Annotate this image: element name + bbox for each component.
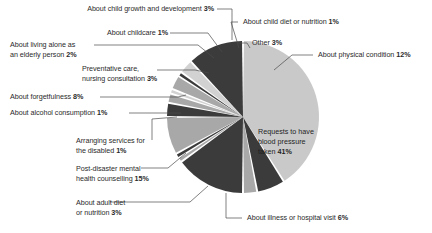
callout-preventative-line1: Preventative care,: [82, 64, 157, 74]
callout-child-growth-value: 3%: [204, 4, 214, 13]
callout-child-growth-text: About child growth and development: [87, 4, 204, 13]
callout-post-disaster-mental-health: Post-disaster mental health counselling …: [76, 164, 149, 183]
callout-childcare: About childcare 1%: [107, 28, 168, 38]
callout-alcohol-consumption: About alcohol consumption 1%: [10, 108, 107, 118]
callout-child-growth: About child growth and development 3%: [87, 4, 214, 14]
callout-adult-diet-line2: or nutrition 3%: [76, 208, 125, 218]
callout-preventative-text2: nursing consultation: [82, 74, 147, 83]
callout-physical-text: About physical condition: [318, 50, 396, 59]
callout-living-alone: About living alone as an elderly person …: [10, 40, 77, 59]
callout-physical-value: 12%: [396, 50, 410, 59]
callout-child-diet-text: About child diet or nutrition: [243, 17, 329, 26]
callout-living-alone-line2: an elderly person 2%: [10, 50, 77, 60]
callout-child-diet: About child diet or nutrition 1%: [243, 17, 339, 27]
callout-post-disaster-line1: Post-disaster mental: [76, 164, 149, 174]
callout-living-alone-text2: an elderly person: [10, 50, 66, 59]
inner-label-blood-pressure-text3: taken: [258, 147, 278, 156]
callout-other-value: 3%: [272, 38, 282, 47]
inner-label-blood-pressure-line3: taken 41%: [258, 147, 314, 157]
callout-living-alone-line1: About living alone as: [10, 40, 77, 50]
callout-disabled-value: 1%: [116, 146, 126, 155]
pie-chart-figure: About child growth and development 3% Ab…: [0, 0, 432, 233]
callout-preventative-line2: nursing consultation 3%: [82, 74, 157, 84]
callout-forgetfulness: About forgetfulness 8%: [10, 92, 83, 102]
callout-childcare-text: About childcare: [107, 28, 158, 37]
callout-other: Other 3%: [252, 38, 282, 48]
callout-post-disaster-text2: health counselling: [76, 174, 135, 183]
callout-alcohol-text: About alcohol consumption: [10, 108, 97, 117]
callout-post-disaster-value: 15%: [135, 174, 149, 183]
callout-forgetfulness-value: 8%: [73, 92, 83, 101]
callout-adult-diet: About adult diet or nutrition 3%: [76, 198, 125, 217]
callout-illness-text: About illness or hospital visit: [247, 213, 338, 222]
callout-adult-diet-line1: About adult diet: [76, 198, 125, 208]
callout-preventative-value: 3%: [147, 74, 157, 83]
callout-alcohol-value: 1%: [97, 108, 107, 117]
callout-disabled-line1: Arranging services for: [76, 136, 145, 146]
callout-post-disaster-line2: health counselling 15%: [76, 174, 149, 184]
leader-line-child-growth: [217, 9, 232, 40]
callout-disabled-line2: the disabled 1%: [76, 146, 145, 156]
callout-disabled-text2: the disabled: [76, 146, 116, 155]
callout-forgetfulness-text: About forgetfulness: [10, 92, 73, 101]
inner-label-blood-pressure-line1: Requests to have: [258, 127, 314, 137]
callout-adult-diet-value: 3%: [111, 208, 121, 217]
inner-label-blood-pressure: Requests to have blood pressure taken 41…: [258, 127, 314, 157]
callout-illness-value: 6%: [338, 213, 348, 222]
callout-child-diet-value: 1%: [329, 17, 339, 26]
leader-line-illness: [226, 193, 242, 218]
inner-label-blood-pressure-value: 41%: [278, 147, 292, 156]
leader-line-living-alone: [94, 45, 214, 58]
callout-arranging-services-disabled: Arranging services for the disabled 1%: [76, 136, 145, 155]
callout-other-text: Other: [252, 38, 272, 47]
callout-physical-condition: About physical condition 12%: [318, 50, 411, 60]
inner-label-blood-pressure-line2: blood pressure: [258, 137, 314, 147]
callout-illness-hospital-visit: About illness or hospital visit 6%: [247, 213, 348, 223]
callout-preventative-care: Preventative care, nursing consultation …: [82, 64, 157, 83]
callout-adult-diet-text2: or nutrition: [76, 208, 111, 217]
callout-living-alone-value: 2%: [66, 50, 76, 59]
callout-childcare-value: 1%: [158, 28, 168, 37]
pie-slices-group: [167, 41, 319, 193]
